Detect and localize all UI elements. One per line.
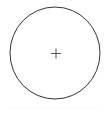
circle-diagram-svg: [0, 0, 110, 114]
figure-canvas: Circle with center crosshair marker: [0, 0, 110, 114]
canvas-background: [0, 0, 110, 114]
